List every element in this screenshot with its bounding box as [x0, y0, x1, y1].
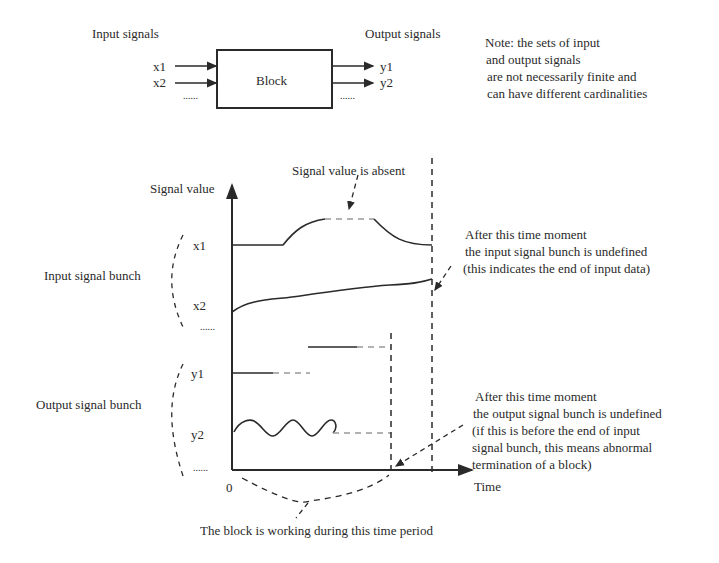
input-signals-label: Input signals [92, 26, 159, 42]
origin-label: 0 [226, 480, 233, 496]
y1-label: y1 [191, 366, 204, 382]
output-signals-label: Output signals [365, 26, 440, 42]
output-y2-label: y2 [380, 75, 393, 91]
input-x2-label: x2 [153, 75, 166, 91]
annotation-line: signal bunch, this means abnormal [472, 440, 652, 455]
signal-y2 [234, 420, 391, 436]
annotation-line: the output signal bunch is undefined [473, 406, 662, 421]
input-x1-label: x1 [153, 59, 166, 75]
input-bunch-label: Input signal bunch [44, 268, 141, 284]
signal-y1 [232, 347, 391, 373]
input-bunch-brace [172, 235, 183, 327]
working-period-brace [242, 475, 389, 502]
x-axis-label: Time [474, 479, 501, 495]
x1-label: x1 [193, 238, 206, 254]
block-label: Block [256, 73, 287, 89]
timing-axes [232, 185, 472, 470]
y2-label: y2 [191, 427, 204, 443]
note-line: are not necessarily finite and [487, 69, 636, 84]
output-bunch-label: Output signal bunch [36, 397, 141, 413]
note-line: can have different cardinalities [487, 86, 647, 101]
working-period-pointer [296, 503, 308, 518]
input-ellipsis: ...... [183, 88, 198, 104]
note-line: and output signals [486, 52, 581, 67]
output-end-pointer [396, 425, 463, 466]
absent-annotation: Signal value is absent [292, 163, 405, 179]
annotation-line: the input signal bunch is undefined [465, 244, 647, 259]
signal-x1 [232, 219, 432, 245]
output-ellipsis: ...... [340, 88, 355, 104]
annotation-line: (this indicates the end of input data) [463, 261, 650, 276]
signal-x2 [232, 279, 432, 312]
annotation-line: After this time moment [475, 389, 597, 404]
x2-label: x2 [193, 298, 206, 314]
output-bunch-brace [172, 364, 183, 476]
annotation-line: (if this is before the end of input [472, 423, 640, 438]
output-y1-label: y1 [380, 59, 393, 75]
annotation-line: termination of a block) [472, 457, 592, 472]
annotation-line: After this time moment [465, 227, 587, 242]
working-period-annotation: The block is working during this time pe… [200, 523, 433, 539]
output-bunch-ellipsis: ...... [193, 460, 208, 476]
input-end-pointer [435, 266, 451, 290]
absent-pointer [349, 175, 358, 209]
note-line: Note: the sets of input [485, 35, 600, 50]
y-axis-label: Signal value [150, 181, 215, 197]
input-bunch-ellipsis: ...... [200, 319, 215, 335]
